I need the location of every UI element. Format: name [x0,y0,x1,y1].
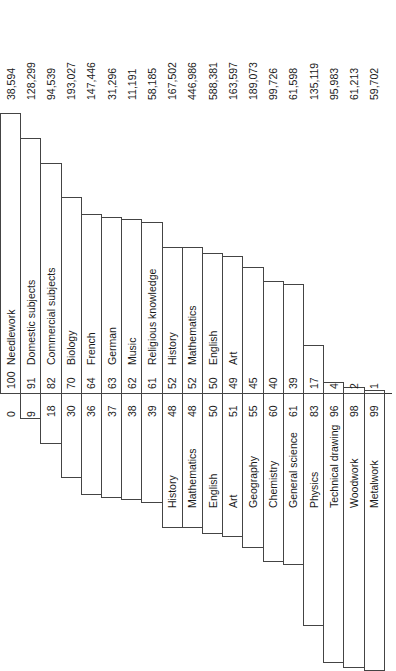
total-entries-label: 61,598 [283,68,303,100]
girls-pct-label: 50 [203,377,223,389]
boys-pct-label: 37 [102,405,122,417]
subject-label-girls: Commercial subjects [41,268,61,365]
girls-pct-label: 4 [324,383,344,389]
boys-pct-label: 39 [142,405,162,417]
girls-bar [162,247,183,394]
boys-pct-label: 61 [283,405,303,417]
girls-pct-label: 91 [21,377,41,389]
boys-bar [40,393,61,444]
subject-label-boys: Art [223,495,243,508]
subject-label-boys: History [162,475,182,508]
girls-bar [222,256,243,394]
girls-bar [101,217,122,394]
total-entries-label: 61,213 [344,68,364,100]
boys-pct-label: 83 [304,405,324,417]
boys-pct-label: 98 [344,405,364,417]
subject-label-boys: English [203,474,223,508]
girls-pct-label: 52 [182,377,202,389]
girls-bar [81,214,102,394]
boys-pct-label: 96 [324,405,344,417]
girls-pct-label: 39 [283,377,303,389]
subject-label-girls: Biology [61,331,81,365]
girls-pct-label: 52 [162,377,182,389]
boys-pct-label: 0 [1,411,21,417]
subject-label-girls: Art [223,352,243,365]
boys-pct-label: 48 [162,405,182,417]
total-entries-label: 135,119 [304,63,324,100]
subject-label-girls: Needlework [1,310,21,365]
boys-pct-label: 51 [223,405,243,417]
subject-label-boys: General science [283,432,303,508]
boys-bar [364,393,385,671]
subject-label-girls: Domestic subjects [21,280,41,365]
subject-label-boys: Physics [304,472,324,508]
total-entries-label: 58,185 [142,68,162,100]
boys-pct-label: 38 [122,405,142,417]
total-entries-label: 99,726 [263,68,283,100]
total-entries-label: 446,986 [182,62,202,100]
boys-pct-label: 50 [203,405,223,417]
total-entries-label: 588,381 [203,62,223,100]
subject-label-girls: Mathematics [182,305,202,365]
girls-pct-label: 17 [304,377,324,389]
subject-label-girls: Music [122,338,142,365]
total-entries-label: 189,073 [243,62,263,100]
subject-label-girls: History [162,332,182,365]
subject-label-boys: Chemistry [263,461,283,508]
girls-pct-label: 40 [263,377,283,389]
boys-pct-label: 48 [182,405,202,417]
boys-pct-label: 9 [21,411,41,417]
girls-pct-label: 49 [223,377,243,389]
girls-pct-label: 61 [142,377,162,389]
boys-pct-label: 18 [41,405,61,417]
total-entries-label: 163,597 [223,62,243,100]
girls-bar [202,253,223,394]
subject-label-boys: Mathematics [182,448,202,508]
subject-label-boys: Metalwork [364,460,384,508]
total-entries-label: 167,502 [162,62,182,100]
subject-label-boys: Woodwork [344,459,364,508]
total-entries-label: 128,299 [21,62,41,100]
girls-pct-label: 64 [81,377,101,389]
girls-pct-label: 82 [41,377,61,389]
subject-label-girls: French [81,332,101,365]
girls-pct-label: 1 [364,383,384,389]
subject-label-boys: Geography [243,456,263,508]
girls-bar [242,267,263,394]
boys-pct-label: 99 [364,405,384,417]
total-entries-label: 31,296 [102,68,122,100]
total-entries-label: 59,702 [364,68,384,100]
subject-label-girls: Religious knowledge [142,269,162,365]
total-entries-label: 94,539 [41,68,61,100]
girls-pct-label: 63 [102,377,122,389]
girls-pct-label: 70 [61,377,81,389]
subject-label-girls: English [203,331,223,365]
girls-bar [121,219,142,394]
subject-label-boys: Technical drawing [324,425,344,508]
boys-pct-label: 36 [81,405,101,417]
subject-label-girls: German [102,327,122,365]
boys-bar [303,393,324,626]
girls-pct-label: 62 [122,377,142,389]
boys-pct-label: 30 [61,405,81,417]
girls-pct-label: 45 [243,377,263,389]
total-entries-label: 11,191 [122,69,142,100]
boys-pct-label: 55 [243,405,263,417]
total-entries-label: 193,027 [61,62,81,100]
girls-pct-label: 2 [344,383,364,389]
girls-pct-label: 100 [1,371,21,389]
total-entries-label: 38,594 [1,68,21,100]
total-entries-label: 95,983 [324,68,344,100]
boys-pct-label: 60 [263,405,283,417]
boys-bar [343,393,364,668]
total-entries-label: 147,446 [81,62,101,100]
